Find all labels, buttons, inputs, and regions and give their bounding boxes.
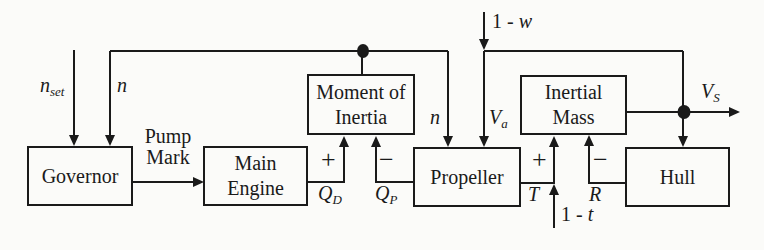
qp-label: QP (375, 182, 397, 205)
qd-base: Q (318, 182, 332, 204)
qp-minus-sign: − (379, 147, 394, 173)
n-propeller-var: n (430, 106, 440, 128)
block-main-engine: Main Engine (203, 146, 308, 206)
vs-to-hull-arrowhead-icon (678, 136, 688, 147)
thrust-arrowhead-icon (549, 136, 559, 147)
one-minus-w-arrowhead-icon (479, 39, 489, 50)
qp-sub: P (389, 192, 397, 207)
block-hull-label: Hull (660, 165, 696, 190)
one-minus-w-var: w (519, 10, 532, 32)
one-minus-w-prefix: 1 - (492, 10, 514, 32)
one-minus-t-label: 1 -t (561, 203, 593, 226)
one-minus-t-prefix: 1 - (561, 203, 583, 225)
n-propeller-label: n (430, 106, 440, 129)
n-set-arrowhead-icon (69, 135, 79, 146)
resistance-minus-sign: − (593, 147, 608, 173)
thrust-plus-sign: + (532, 147, 547, 173)
va-arrowhead-icon (479, 136, 489, 147)
pump-mark-label: Pump Mark (134, 126, 202, 168)
qd-sub: D (332, 192, 341, 207)
vs-output-arrowhead-icon (729, 107, 740, 117)
block-governor: Governor (27, 146, 133, 206)
one-minus-t-arrowhead-icon (549, 184, 559, 195)
block-inertial-mass-label: Inertial Mass (522, 80, 625, 130)
block-governor-label: Governor (42, 164, 119, 189)
va-label: Va (489, 106, 508, 129)
n-set-label: nset (40, 74, 64, 97)
n-set-base: n (40, 74, 50, 96)
n-set-sub: set (50, 84, 64, 99)
qd-label: QD (318, 182, 342, 205)
thrust-label: T (528, 183, 539, 206)
qd-arrowhead-icon (339, 136, 349, 147)
vs-base: V (701, 80, 713, 102)
va-base: V (489, 106, 501, 128)
n-to-governor-arrowhead-icon (105, 135, 115, 146)
n-governor-var: n (117, 74, 127, 96)
resistance-label: R (589, 183, 601, 206)
block-propeller: Propeller (413, 147, 521, 207)
block-propeller-label: Propeller (430, 165, 503, 190)
n-to-propeller-arrowhead-icon (443, 136, 453, 147)
block-inertial-mass: Inertial Mass (520, 75, 627, 135)
qp-base: Q (375, 182, 389, 204)
va-sub: a (501, 116, 508, 131)
n-junction-dot-icon (357, 44, 369, 58)
n-governor-label: n (117, 74, 127, 97)
block-main-engine-label: Main Engine (205, 151, 306, 201)
qd-plus-sign: + (321, 147, 336, 173)
vs-sub: S (713, 90, 720, 105)
block-moment-of-inertia-label: Moment of Inertia (309, 80, 413, 130)
one-minus-t-var: t (588, 203, 594, 225)
block-diagram-canvas: Governor Main Engine Moment of Inertia P… (0, 0, 764, 250)
vs-label: VS (701, 80, 720, 103)
block-moment-of-inertia: Moment of Inertia (307, 74, 415, 135)
one-minus-w-label: 1 -w (492, 10, 532, 33)
thrust-var: T (528, 183, 539, 205)
resistance-var: R (589, 183, 601, 205)
block-hull: Hull (625, 147, 730, 207)
